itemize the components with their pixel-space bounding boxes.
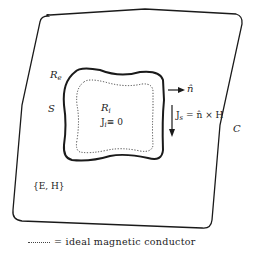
interior-current-label: Ji≡ 0 [101,118,123,129]
fields-label: {E, H} [33,182,65,191]
normal-arrowhead [178,87,185,93]
legend-text: = ideal magnetic conductor [54,236,196,247]
exterior-region-label: Re [50,70,62,82]
surface-current-arrowhead [169,129,175,137]
surface-label: S [48,104,55,114]
normal-label: n̂ [187,84,193,94]
legend: = ideal magnetic conductor [28,236,196,247]
interior-region-label: Ri [101,103,111,115]
dotted-line-symbol [28,242,50,243]
surface-s [64,68,164,160]
outer-contour-label: C [233,124,241,134]
diagram-canvas [0,0,253,253]
surface-current-label: Js = n̂ × H [176,111,223,122]
